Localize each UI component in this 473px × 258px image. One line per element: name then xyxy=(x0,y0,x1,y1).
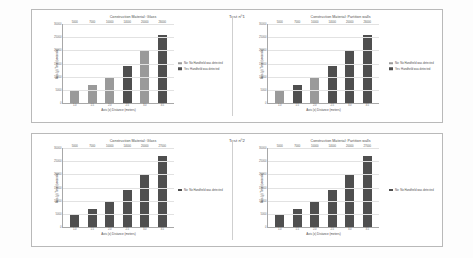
bar xyxy=(275,214,284,227)
legend-item: No: No Handheld was detected xyxy=(178,188,223,192)
chart-title: Construction Material: Partition walls xyxy=(239,15,442,19)
bar xyxy=(328,190,337,227)
chart-title: Construction Material: Glass xyxy=(34,139,232,143)
panel-divider-2 xyxy=(232,140,233,240)
gridline xyxy=(268,24,379,25)
x-axis-tick-label: 1.0 xyxy=(275,228,284,231)
y-axis-tick-label: 25000 xyxy=(259,36,266,39)
x-axis-tick-label: 2.5 xyxy=(123,228,132,231)
legend-label: Yes: Handheld was detected xyxy=(395,67,430,71)
gridline xyxy=(268,148,379,149)
x-axis-ticks: 1.01.52.02.53.03.5 xyxy=(268,228,379,231)
legend-label: No: No Handheld was detected xyxy=(395,188,434,192)
x-axis-tick-label: 3.5 xyxy=(158,228,167,231)
gridline xyxy=(63,24,174,25)
bar xyxy=(158,156,167,227)
x-axis-tick-label: 3.5 xyxy=(363,228,372,231)
gridline xyxy=(63,37,174,38)
x-axis-tick-label: 1.0 xyxy=(275,104,284,107)
chart-legend: No: No Handheld was detected xyxy=(389,188,434,192)
y-axis-ticks: 300002500020000150001000050000 xyxy=(43,148,63,227)
y-axis-tick-label: 0 xyxy=(60,226,62,229)
y-axis-tick-label: 0 xyxy=(265,226,267,229)
legend-swatch xyxy=(178,189,182,192)
gridline xyxy=(63,188,174,189)
legend-swatch xyxy=(389,189,393,192)
bar xyxy=(293,209,302,227)
x-axis-ticks: 1.01.52.02.53.03.5 xyxy=(268,104,379,107)
legend-label: Yes: Handheld was detected xyxy=(184,67,219,71)
bar xyxy=(275,90,284,103)
y-axis-tick-label: 25000 xyxy=(259,160,266,163)
y-axis-title: Axis (y) Time (seconds) xyxy=(260,172,264,202)
legend-item: Yes: Handheld was detected xyxy=(178,67,223,71)
document-page: Test nº1 Construction Material: Glass 30… xyxy=(0,0,473,258)
gridline xyxy=(268,174,379,175)
legend-label: No: No Handheld was detected xyxy=(395,61,434,65)
y-axis-title: Axis (y) Time (seconds) xyxy=(260,48,264,78)
legend-swatch xyxy=(389,62,393,65)
legend-item: No: No Handheld was detected xyxy=(389,188,434,192)
plot-area: 300002500020000150001000050000 500070001… xyxy=(267,24,379,104)
x-axis-tick-label: 3.5 xyxy=(363,104,372,107)
plot-area: 300002500020000150001000050000 500070001… xyxy=(267,148,379,228)
gridline xyxy=(268,201,379,202)
chart-title: Construction Material: Glass xyxy=(34,15,232,19)
chart-partition-test-2: Construction Material: Partition walls 3… xyxy=(239,134,442,246)
chart-glass-test-1: Construction Material: Glass 30000250002… xyxy=(34,10,232,122)
plot-area: 300002500020000150001000050000 500070001… xyxy=(62,24,174,104)
gridline xyxy=(63,161,174,162)
gridline xyxy=(63,201,174,202)
bar xyxy=(70,90,79,103)
y-axis-title: Axis (y) Time (seconds) xyxy=(55,172,59,202)
gridline xyxy=(268,90,379,91)
y-axis-tick-label: 30000 xyxy=(54,147,61,150)
legend-item: Yes: Handheld was detected xyxy=(389,67,434,71)
x-axis-tick-label: 3.0 xyxy=(140,104,149,107)
x-axis-tick-label: 1.5 xyxy=(88,104,97,107)
bar xyxy=(363,156,372,227)
panel-test-2: Test nº2 Construction Material: Glass 30… xyxy=(31,133,443,247)
gridline xyxy=(63,174,174,175)
y-axis-tick-label: 5000 xyxy=(261,88,267,91)
x-axis-tick-label: 2.5 xyxy=(328,228,337,231)
x-axis-tick-label: 2.5 xyxy=(123,104,132,107)
gridline xyxy=(63,148,174,149)
y-axis-tick-label: 0 xyxy=(265,102,267,105)
legend-item: No: No Handheld was detected xyxy=(389,61,434,65)
x-axis-tick-label: 3.0 xyxy=(345,228,354,231)
y-axis-tick-label: 30000 xyxy=(259,147,266,150)
panel-test-1: Test nº1 Construction Material: Glass 30… xyxy=(31,9,443,123)
y-axis-tick-label: 30000 xyxy=(259,23,266,26)
x-axis-ticks: 1.01.52.02.53.03.5 xyxy=(63,228,174,231)
y-axis-ticks: 300002500020000150001000050000 xyxy=(248,24,268,103)
legend-swatch xyxy=(178,67,182,70)
x-axis-title: Axis (x) Distance (meters) xyxy=(63,232,174,236)
x-axis-title: Axis (x) Distance (meters) xyxy=(63,108,174,112)
x-axis-tick-label: 3.5 xyxy=(158,104,167,107)
y-axis-tick-label: 5000 xyxy=(261,212,267,215)
x-axis-tick-label: 2.0 xyxy=(105,228,114,231)
bar xyxy=(158,35,167,103)
gridline xyxy=(268,50,379,51)
x-axis-tick-label: 2.0 xyxy=(310,104,319,107)
gridline xyxy=(268,161,379,162)
legend-item: No: No Handheld was detected xyxy=(178,61,223,65)
gridline xyxy=(268,77,379,78)
x-axis-tick-label: 2.0 xyxy=(310,228,319,231)
x-axis-tick-label: 3.0 xyxy=(140,228,149,231)
y-axis-tick-label: 5000 xyxy=(56,212,62,215)
gridline xyxy=(268,37,379,38)
y-axis-tick-label: 25000 xyxy=(54,160,61,163)
chart-legend: No: No Handheld was detectedYes: Handhel… xyxy=(389,61,434,71)
gridline xyxy=(63,214,174,215)
panel-divider-1 xyxy=(232,16,233,116)
chart-partition-test-1: Construction Material: Partition walls 3… xyxy=(239,10,442,122)
legend-label: No: No Handheld was detected xyxy=(184,61,223,65)
gridline xyxy=(63,90,174,91)
bar xyxy=(88,85,97,103)
x-axis-tick-label: 1.5 xyxy=(293,228,302,231)
legend-label: No: No Handheld was detected xyxy=(184,188,223,192)
chart-title: Construction Material: Partition walls xyxy=(239,139,442,143)
bar xyxy=(123,190,132,227)
